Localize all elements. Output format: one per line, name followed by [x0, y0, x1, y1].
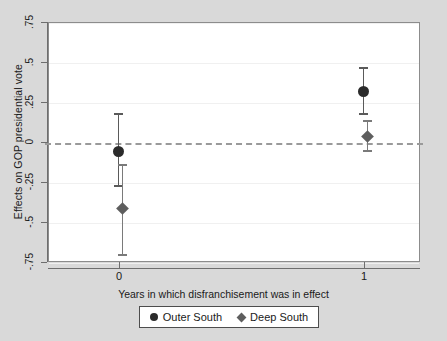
chart-figure: Effects on GOP presidential vote .75.5.2…	[0, 0, 447, 341]
y-axis-tick	[41, 262, 47, 263]
y-axis-tick	[41, 182, 47, 183]
confidence-interval-upper-cap	[363, 120, 372, 122]
y-axis-tick-label-text: .25	[25, 95, 35, 109]
data-point-circle	[358, 86, 369, 97]
gridline	[49, 103, 419, 104]
legend-label: Deep South	[250, 311, 308, 323]
data-point-circle	[113, 146, 124, 157]
x-axis-tick-label: 1	[349, 270, 379, 282]
confidence-interval-upper-cap	[359, 67, 368, 69]
confidence-interval-lower-cap	[363, 150, 372, 152]
plot-area	[48, 22, 420, 262]
data-point-diamond	[361, 130, 374, 143]
data-point-diamond	[116, 202, 129, 215]
legend-marker-diamond-icon	[237, 312, 247, 322]
x-axis-tick	[119, 262, 120, 268]
gridline	[49, 23, 419, 24]
y-axis-tick-label: -.25	[0, 166, 38, 198]
x-axis-tick	[364, 262, 365, 268]
plot-inner	[49, 23, 419, 261]
gridline	[49, 63, 419, 64]
y-axis-tick-label-text: -.75	[25, 253, 35, 270]
y-axis-tick-label: .75	[0, 6, 38, 38]
gridline	[49, 183, 419, 184]
confidence-interval-upper-cap	[118, 164, 127, 166]
y-axis-tick-label-text: .5	[25, 58, 35, 66]
x-axis-title: Years in which disfranchisement was in e…	[0, 288, 447, 300]
y-axis-tick-label: .5	[0, 46, 38, 78]
y-axis-tick	[41, 62, 47, 63]
y-axis-tick-label: 0	[0, 126, 38, 158]
x-axis-tick-label: 0	[104, 270, 134, 282]
y-axis-tick-label: .25	[0, 86, 38, 118]
y-axis-tick-label-text: .75	[25, 15, 35, 29]
x-axis-line	[48, 268, 420, 269]
legend-marker-circle-icon	[150, 313, 158, 321]
legend-entry: Outer South	[150, 311, 222, 323]
y-axis-tick	[41, 222, 47, 223]
y-axis-tick-label-text: -.25	[25, 173, 35, 190]
legend-label: Outer South	[163, 311, 222, 323]
chart-legend: Outer SouthDeep South	[139, 306, 319, 328]
confidence-interval-lower-cap	[359, 113, 368, 115]
y-axis-tick	[41, 102, 47, 103]
y-axis-tick-label: -.75	[0, 246, 38, 278]
y-axis-tick-label-text: -.5	[25, 216, 35, 228]
confidence-interval-upper-cap	[114, 113, 123, 115]
y-axis-tick	[41, 22, 47, 23]
confidence-interval-lower-cap	[118, 254, 127, 256]
y-axis-tick-label: -.5	[0, 206, 38, 238]
gridline	[49, 223, 419, 224]
legend-entry: Deep South	[238, 311, 308, 323]
y-axis-tick-label-text: 0	[25, 139, 35, 145]
